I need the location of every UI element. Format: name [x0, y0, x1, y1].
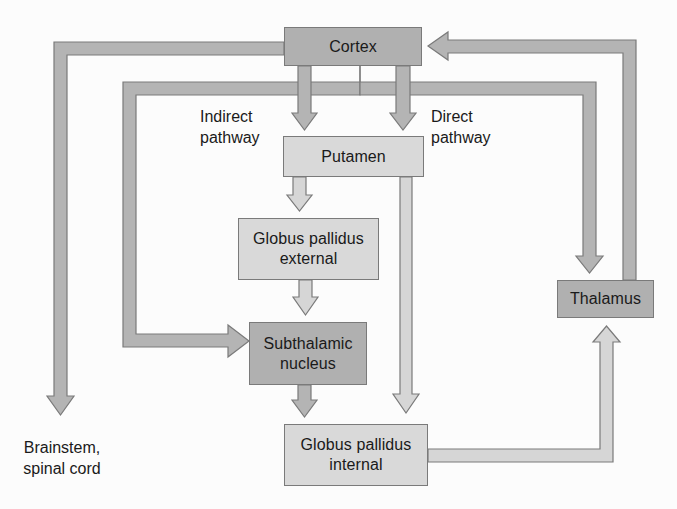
label-brainstem-line1: Brainstem, [18, 437, 106, 458]
arrow-putamen-to-gpi [393, 177, 419, 413]
node-cortex: Cortex [284, 27, 422, 66]
node-cortex-label: Cortex [329, 37, 377, 57]
label-direct-line2: pathway [431, 127, 491, 148]
label-brainstem-line2: spinal cord [18, 458, 106, 479]
node-gpe-line2: external [280, 249, 338, 269]
arrow-putamen-to-gpe [287, 177, 312, 211]
node-putamen-label: Putamen [321, 147, 386, 167]
node-globus-pallidus-internal: Globus pallidus internal [284, 424, 428, 486]
node-stn-line1: Subthalamic [263, 334, 352, 354]
node-thalamus-label: Thalamus [570, 289, 641, 309]
node-putamen: Putamen [283, 136, 424, 177]
node-gpe-line1: Globus pallidus [253, 229, 364, 249]
label-indirect-pathway: Indirect pathway [200, 106, 260, 148]
arrow-gpi-to-thalamus [428, 326, 620, 462]
arrow-gpe-to-stn [293, 280, 318, 315]
arrow-thalamus-to-cortex [428, 32, 636, 280]
arrow-cortex-to-putamen-direct [390, 66, 416, 130]
node-subthalamic-nucleus: Subthalamic nucleus [249, 322, 367, 385]
label-indirect-line2: pathway [200, 127, 260, 148]
basal-ganglia-diagram: Cortex Putamen Globus pallidus external … [0, 0, 677, 509]
node-stn-line2: nucleus [280, 354, 336, 374]
node-thalamus: Thalamus [557, 280, 654, 318]
label-direct-pathway: Direct pathway [431, 106, 491, 148]
node-gpi-line1: Globus pallidus [301, 435, 412, 455]
arrow-cortex-to-putamen-indirect [292, 66, 317, 130]
arrow-stn-to-gpi [292, 385, 317, 417]
node-gpi-line2: internal [329, 455, 382, 475]
node-globus-pallidus-external: Globus pallidus external [238, 218, 379, 280]
label-brainstem-spinal-cord: Brainstem, spinal cord [18, 437, 106, 479]
label-direct-line1: Direct [431, 106, 491, 127]
label-indirect-line1: Indirect [200, 106, 260, 127]
